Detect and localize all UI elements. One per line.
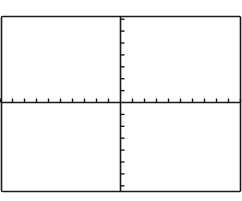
coordinate-plane bbox=[0, 0, 242, 201]
